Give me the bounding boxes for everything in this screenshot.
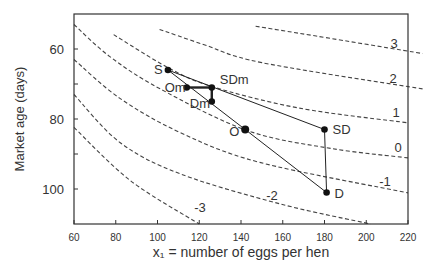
point-O: [241, 126, 249, 134]
x-tick-label: 120: [191, 232, 208, 243]
contour-chart: SOmSDmDmOSDD 3210-1-2-3 6080100120140160…: [0, 0, 436, 272]
contour-label-1: 1: [392, 105, 399, 120]
x-tick-label: 160: [274, 232, 291, 243]
segment-O-D: [245, 130, 326, 193]
contour-label--3: -3: [194, 200, 206, 215]
contour-label-0: 0: [394, 140, 401, 155]
x-tick-label: 180: [316, 232, 333, 243]
plot-frame: [74, 14, 408, 224]
segment-SD-D: [325, 130, 327, 193]
y-axis-ticks: 6080100: [42, 42, 78, 197]
contour-line-2: [160, 29, 423, 89]
y-axis-label: Market age (days): [12, 67, 27, 172]
point-SD: [321, 126, 328, 133]
contour-label-2: 2: [389, 71, 396, 86]
contour-line--3: [74, 127, 199, 224]
x-tick-label: 60: [68, 232, 80, 243]
point-label-S: S: [154, 62, 163, 77]
data-points: SOmSDmDmOSDD: [154, 62, 351, 201]
contour-line-0: [74, 25, 408, 158]
y-tick-label: 60: [50, 42, 64, 57]
x-tick-label: 200: [358, 232, 375, 243]
x-tick-label: 100: [149, 232, 166, 243]
contour-label--1: -1: [379, 174, 391, 189]
contour-line-1: [114, 35, 408, 123]
point-label-Om: Om: [165, 80, 186, 95]
point-label-D: D: [335, 186, 344, 201]
x-tick-label: 80: [110, 232, 122, 243]
point-S: [165, 67, 172, 74]
point-D: [323, 189, 330, 196]
point-label-SDm: SDm: [220, 72, 249, 87]
contour-label-3: 3: [390, 36, 397, 51]
x-tick-label: 140: [233, 232, 250, 243]
contour-label--2: -2: [266, 188, 278, 203]
x-axis-label: x₁ = number of eggs per hen: [153, 244, 329, 260]
point-label-Dm: Dm: [190, 96, 210, 111]
contour-lines: [74, 25, 423, 225]
y-tick-label: 100: [42, 182, 64, 197]
point-label-SD: SD: [333, 122, 351, 137]
y-tick-label: 80: [50, 112, 64, 127]
x-tick-label: 220: [400, 232, 417, 243]
point-SDm: [208, 84, 215, 91]
point-label-O: O: [229, 124, 239, 139]
